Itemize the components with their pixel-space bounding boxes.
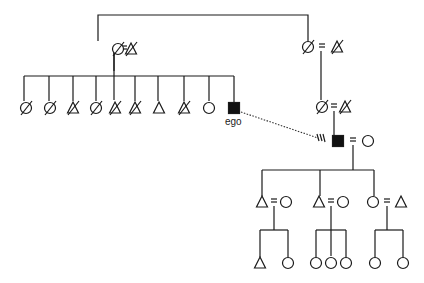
female-symbol-icon — [363, 136, 374, 147]
male-symbol-icon — [255, 257, 266, 268]
kinship-diagram — [0, 0, 424, 283]
female-symbol-icon — [370, 258, 381, 269]
marriage-equals-icon — [331, 104, 337, 107]
marriage-symbols — [121, 44, 390, 202]
female-symbol-icon — [398, 258, 409, 269]
ego-symbol-icon — [333, 136, 344, 147]
sibling-drops — [24, 76, 234, 102]
female-symbol-icon — [91, 101, 103, 115]
female-symbol-icon — [341, 258, 352, 269]
marriage-equals-icon — [350, 138, 356, 141]
male-symbol-icon — [257, 196, 268, 207]
female-symbol-icon — [311, 258, 322, 269]
male-symbol-icon — [68, 101, 80, 115]
individuals — [21, 40, 409, 269]
grandparents-link-line — [98, 15, 308, 41]
marriage-equals-icon — [328, 199, 334, 202]
ego-identity-arrow — [241, 112, 318, 138]
female-symbol-icon — [21, 101, 33, 115]
arrowhead-icon — [317, 134, 325, 142]
female-symbol-icon — [45, 101, 57, 115]
female-symbol-icon — [326, 258, 337, 269]
ego-symbol-icon — [229, 103, 240, 114]
male-symbol-icon — [340, 100, 352, 114]
female-symbol-icon — [283, 258, 294, 269]
male-symbol-icon — [110, 101, 122, 115]
male-symbol-icon — [126, 42, 138, 56]
female-symbol-icon — [303, 40, 315, 54]
male-symbol-icon — [314, 196, 325, 207]
male-symbol-icon — [130, 101, 142, 115]
male-symbol-icon — [179, 101, 191, 115]
marriage-equals-icon — [384, 199, 390, 202]
female-symbol-icon — [281, 197, 292, 208]
marriage-equals-icon — [271, 199, 277, 202]
female-symbol-icon — [368, 197, 379, 208]
marriage-equals-icon — [319, 44, 325, 47]
male-symbol-icon — [154, 102, 165, 113]
female-symbol-icon — [204, 103, 215, 114]
female-symbol-icon — [113, 42, 125, 56]
ego-label: ego — [225, 116, 242, 127]
female-symbol-icon — [317, 100, 329, 114]
male-symbol-icon — [396, 196, 407, 207]
female-symbol-icon — [338, 197, 349, 208]
male-symbol-icon — [332, 40, 344, 54]
